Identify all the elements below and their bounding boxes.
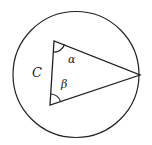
angle-label-beta: β — [60, 78, 67, 91]
angle-label-alpha: α — [68, 53, 76, 66]
triangle — [50, 41, 140, 105]
geometry-diagram: C α β — [0, 0, 152, 145]
side-label-c: C — [32, 65, 42, 80]
angle-beta-arc — [51, 94, 61, 102]
angle-alpha-arc — [53, 45, 64, 53]
